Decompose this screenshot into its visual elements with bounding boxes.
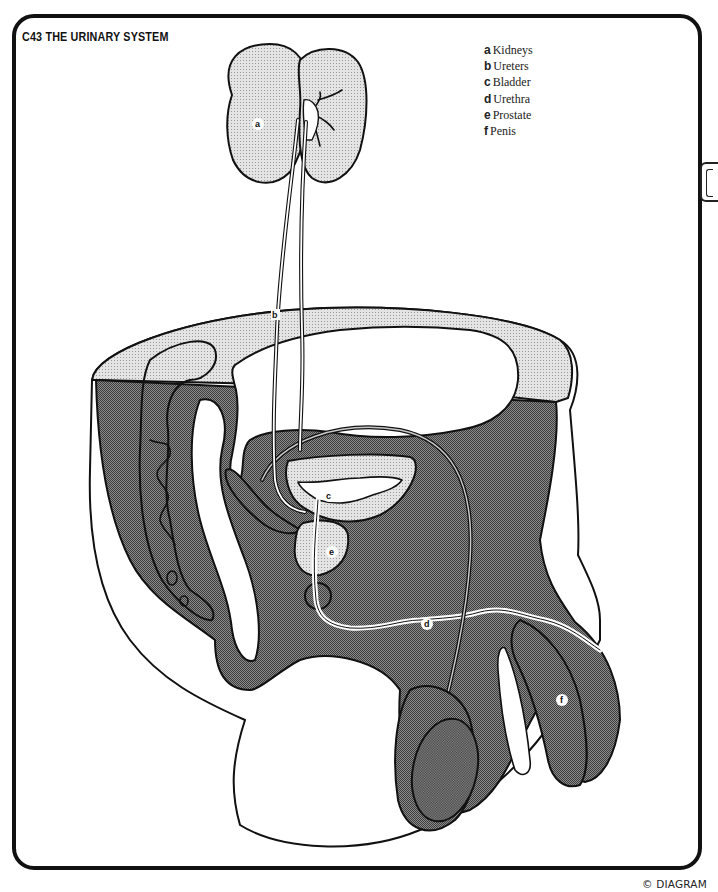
label-c: c bbox=[326, 491, 331, 501]
copyright-notice: © DIAGRAM bbox=[642, 878, 707, 890]
label-b: b bbox=[272, 310, 278, 320]
label-d: d bbox=[424, 619, 430, 629]
label-e: e bbox=[329, 547, 334, 557]
kidney-left bbox=[227, 44, 309, 183]
